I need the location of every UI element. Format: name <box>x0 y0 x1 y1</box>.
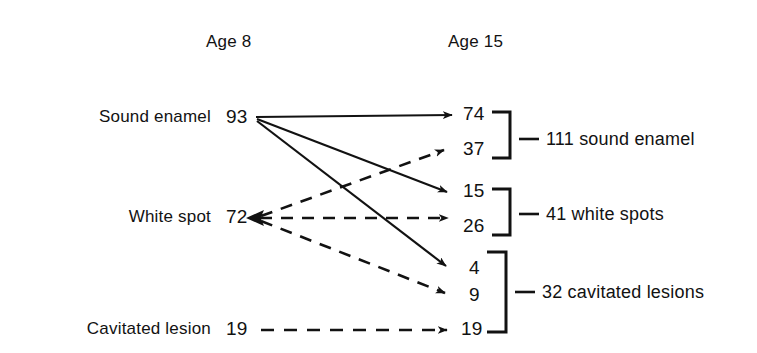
flow-white-spot-to-37 <box>261 150 444 216</box>
node-value-cavitated-lesion-8: 19 <box>226 319 248 338</box>
node-value-15: 15 <box>463 181 485 200</box>
row-label-sound-enamel: Sound enamel <box>35 108 211 125</box>
node-value-9: 9 <box>469 285 480 304</box>
flow-sound-enamel-to-4 <box>257 121 446 266</box>
node-value-white-spot-8: 72 <box>226 207 248 226</box>
row-label-cavitated-lesion: Cavitated lesion <box>18 320 211 337</box>
flow-sound-enamel-to-15 <box>257 119 447 192</box>
column-header-age-8: Age 8 <box>206 33 251 50</box>
column-header-age-15: Age 15 <box>448 33 503 50</box>
flow-white-spot-to-9 <box>261 221 445 293</box>
node-value-19: 19 <box>461 319 483 338</box>
group-total-sound-enamel: 111 sound enamel <box>546 130 695 148</box>
group-total-white-spots: 41 white spots <box>546 205 664 223</box>
flow-sound-enamel-to-74 <box>256 115 452 117</box>
bracket-sound-enamel <box>492 112 510 158</box>
node-value-4: 4 <box>469 258 480 277</box>
node-value-26: 26 <box>463 216 485 235</box>
transition-diagram: Age 8 Age 15 Sound enamel White spot Cav… <box>0 0 757 353</box>
bracket-white-spots <box>492 189 510 235</box>
bracket-cavitated-lesions <box>487 252 506 332</box>
row-label-white-spot: White spot <box>35 208 211 225</box>
node-value-37: 37 <box>463 139 485 158</box>
group-total-cavitated-lesions: 32 cavitated lesions <box>542 283 704 301</box>
node-value-74: 74 <box>463 104 485 123</box>
node-value-sound-enamel-8: 93 <box>226 107 248 126</box>
